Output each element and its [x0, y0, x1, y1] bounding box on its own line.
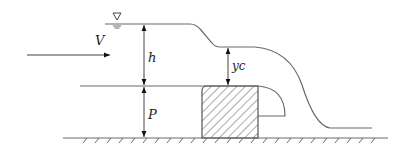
ground-hatching	[83, 138, 375, 143]
critical-depth-label: yc	[231, 59, 246, 73]
weir-height-label: P	[147, 107, 157, 122]
velocity-label: V	[95, 33, 106, 48]
weir-diagram: V h P yc	[0, 0, 410, 160]
lower-nappe	[258, 86, 285, 116]
weir-block	[202, 86, 258, 138]
water-surface-symbol	[113, 13, 121, 28]
channel-bed	[63, 138, 388, 143]
head-label: h	[148, 50, 156, 65]
